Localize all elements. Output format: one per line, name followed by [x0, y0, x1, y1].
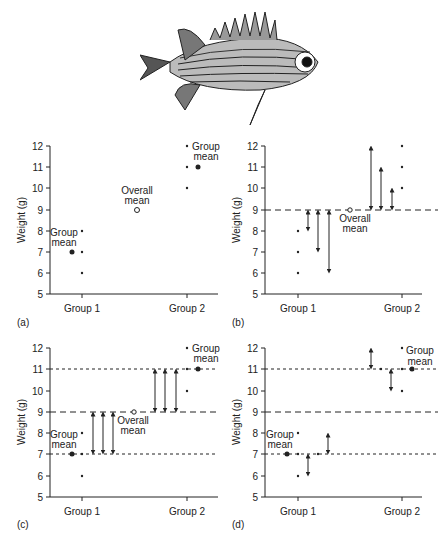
x-label-group-2: Group 2 — [169, 506, 206, 517]
ytick: 9 — [37, 205, 43, 216]
panel-d-chart: 12 11 10 9 8 7 6 5 Weight (g) Group 1 Gr… — [220, 340, 440, 538]
ytick: 5 — [37, 492, 43, 503]
ytick: 7 — [37, 449, 43, 460]
annotation: Group — [406, 345, 434, 356]
ytick: 8 — [252, 226, 258, 237]
annotation: mean — [193, 151, 218, 162]
panel-b-chart: 12 11 10 9 8 7 6 5 Weight (g) Group 1 Gr… — [220, 140, 440, 340]
panel-label: (d) — [232, 519, 244, 530]
panel-label: (c) — [17, 519, 29, 530]
ytick: 6 — [37, 268, 43, 279]
ytick: 8 — [252, 428, 258, 439]
x-label-group-1: Group 1 — [280, 506, 317, 517]
ytick: 9 — [37, 407, 43, 418]
ytick: 12 — [32, 343, 44, 354]
ytick: 12 — [247, 141, 259, 152]
y-axis-label: Weight (g) — [16, 197, 27, 243]
ytick: 11 — [33, 162, 44, 173]
ytick: 12 — [247, 343, 259, 354]
x-label-group-2: Group 2 — [169, 303, 206, 314]
ytick: 5 — [252, 492, 258, 503]
ytick: 8 — [37, 226, 43, 237]
x-label-group-1: Group 1 — [280, 303, 317, 314]
ytick: 11 — [248, 364, 259, 375]
ytick: 7 — [37, 247, 43, 258]
ytick: 6 — [252, 471, 258, 482]
annotation: mean — [193, 353, 218, 364]
overall-mean-marker — [135, 208, 140, 213]
panel-a-chart: 12 11 10 9 8 7 6 5 Weight (g) Group 1 Gr… — [0, 140, 220, 340]
ytick: 9 — [252, 407, 258, 418]
x-label-group-2: Group 2 — [384, 506, 421, 517]
annotation: mean — [51, 439, 76, 450]
ytick: 11 — [248, 162, 259, 173]
ytick: 10 — [32, 183, 44, 194]
ytick: 6 — [252, 268, 258, 279]
annotation: mean — [342, 223, 367, 234]
ytick: 7 — [252, 449, 258, 460]
overall-mean-marker — [132, 410, 136, 414]
ytick: 6 — [37, 471, 43, 482]
fish-illustration-icon — [140, 0, 320, 135]
ytick: 8 — [37, 428, 43, 439]
x-label-group-2: Group 2 — [384, 303, 421, 314]
x-label-group-1: Group 1 — [64, 303, 101, 314]
panel-label: (b) — [232, 317, 244, 328]
ytick: 10 — [247, 386, 259, 397]
annotation: mean — [267, 439, 292, 450]
ytick: 12 — [32, 141, 44, 152]
overall-mean-marker — [348, 208, 352, 212]
x-label-group-1: Group 1 — [64, 506, 101, 517]
annotation: mean — [51, 237, 76, 248]
ytick: 10 — [32, 386, 44, 397]
panel-label: (a) — [17, 317, 29, 328]
ytick: 5 — [37, 289, 43, 300]
y-axis-label: Weight (g) — [16, 399, 27, 445]
ytick: 11 — [33, 364, 44, 375]
y-axis-label: Weight (g) — [231, 197, 242, 243]
ytick: 10 — [247, 183, 259, 194]
panel-c-chart: 12 11 10 9 8 7 6 5 Weight (g) Group 1 Gr… — [0, 340, 220, 538]
annotation: mean — [124, 195, 149, 206]
ytick: 9 — [252, 205, 258, 216]
ytick: 7 — [252, 247, 258, 258]
annotation: mean — [120, 425, 145, 436]
y-axis-label: Weight (g) — [231, 399, 242, 445]
ytick: 5 — [252, 289, 258, 300]
annotation: mean — [407, 356, 432, 367]
